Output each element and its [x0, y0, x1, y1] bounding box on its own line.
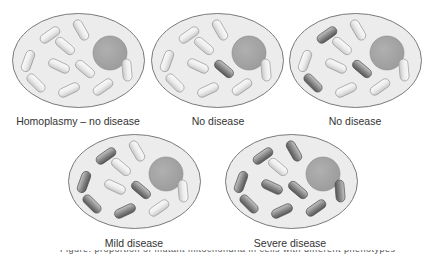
cell-label: Mild disease: [105, 237, 163, 249]
cell-diagram-1: [11, 12, 146, 109]
cell-label: Severe disease: [254, 237, 326, 249]
cell-label: No disease: [329, 115, 382, 127]
cell-label: Homoplasmy – no disease: [16, 115, 140, 127]
cell-diagram-3: [288, 12, 423, 109]
normal-mitochondrion: [178, 180, 189, 203]
normal-mitochondrion: [399, 59, 410, 82]
normal-mitochondrion: [122, 59, 133, 82]
cut-off-caption: Figure: proportion of mutant mitochondri…: [0, 250, 428, 255]
caption-text: Figure: proportion of mutant mitochondri…: [0, 250, 428, 254]
mutant-mitochondrion: [335, 180, 346, 203]
cell-diagram-4: [67, 133, 202, 230]
cell-diagram-5: [224, 133, 359, 230]
normal-mitochondrion: [261, 59, 272, 82]
cell-diagram-2: [150, 12, 285, 109]
cell-label: No disease: [192, 115, 245, 127]
